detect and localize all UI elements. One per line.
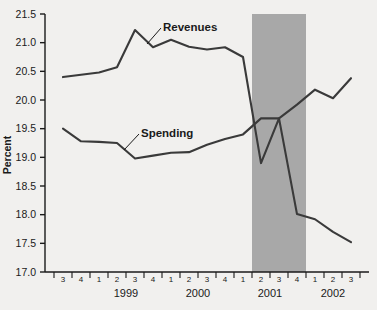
x-quarter-label: 2 — [115, 275, 120, 284]
x-quarter-label: 3 — [349, 275, 354, 284]
y-tick-label: 20.0 — [16, 94, 37, 106]
y-axis-title: Percent — [1, 135, 13, 174]
x-quarter-label: 2 — [331, 275, 336, 284]
budget-line-chart: 21.521.020.520.019.519.018.518.017.517.0… — [0, 0, 377, 310]
x-quarter-label: 1 — [313, 275, 318, 284]
y-tick-label: 19.0 — [16, 151, 37, 163]
y-tick-label: 19.5 — [16, 122, 37, 134]
x-quarter-label: 3 — [205, 275, 210, 284]
x-quarter-label: 2 — [187, 275, 192, 284]
y-tick-label: 17.5 — [16, 237, 37, 249]
series-label-spending: Spending — [141, 127, 193, 139]
y-tick-label: 21.5 — [16, 8, 37, 20]
chart-container: 21.521.020.520.019.519.018.518.017.517.0… — [0, 0, 377, 310]
x-quarter-label: 3 — [61, 275, 66, 284]
shaded-regions-layer — [252, 14, 306, 272]
y-tick-label: 21.0 — [16, 36, 37, 48]
y-tick-label: 17.0 — [16, 266, 37, 278]
series-label-revenues: Revenues — [163, 21, 217, 33]
x-quarter-label: 1 — [97, 275, 102, 284]
x-quarter-label: 3 — [277, 275, 282, 284]
x-year-label: 2001 — [258, 287, 282, 299]
x-quarter-label: 2 — [259, 275, 264, 284]
x-quarter-label: 4 — [151, 275, 156, 284]
x-quarter-label: 3 — [133, 275, 138, 284]
x-quarter-label: 1 — [169, 275, 174, 284]
x-quarter-label: 4 — [223, 275, 228, 284]
x-quarter-label: 4 — [79, 275, 84, 284]
x-year-label: 2000 — [186, 287, 210, 299]
y-tick-label: 20.5 — [16, 65, 37, 77]
x-quarter-label: 4 — [295, 275, 300, 284]
recession-band — [252, 14, 306, 272]
x-year-label: 2002 — [321, 287, 345, 299]
y-tick-label: 18.5 — [16, 180, 37, 192]
x-quarter-label: 1 — [241, 275, 246, 284]
y-tick-label: 18.0 — [16, 208, 37, 220]
x-year-label: 1999 — [114, 287, 138, 299]
